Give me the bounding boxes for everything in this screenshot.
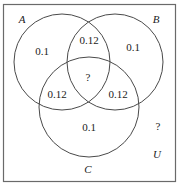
set-label-a: A — [18, 13, 26, 25]
region-a-and-c: 0.12 — [47, 88, 66, 100]
region-b-only: 0.1 — [126, 41, 140, 53]
region-c-only: 0.1 — [82, 121, 96, 133]
universe-label: U — [153, 148, 162, 160]
region-a-only: 0.1 — [35, 45, 49, 57]
universe-frame — [4, 5, 176, 182]
region-outside: ? — [156, 120, 161, 132]
region-a-and-b: 0.12 — [79, 34, 98, 46]
set-label-b: B — [153, 13, 160, 25]
venn-diagram: A B C U 0.1 0.1 0.12 ? 0.12 0.12 0.1 ? — [0, 0, 181, 186]
region-a-b-c: ? — [86, 71, 91, 83]
region-b-and-c: 0.12 — [108, 88, 127, 100]
set-label-c: C — [84, 163, 92, 175]
